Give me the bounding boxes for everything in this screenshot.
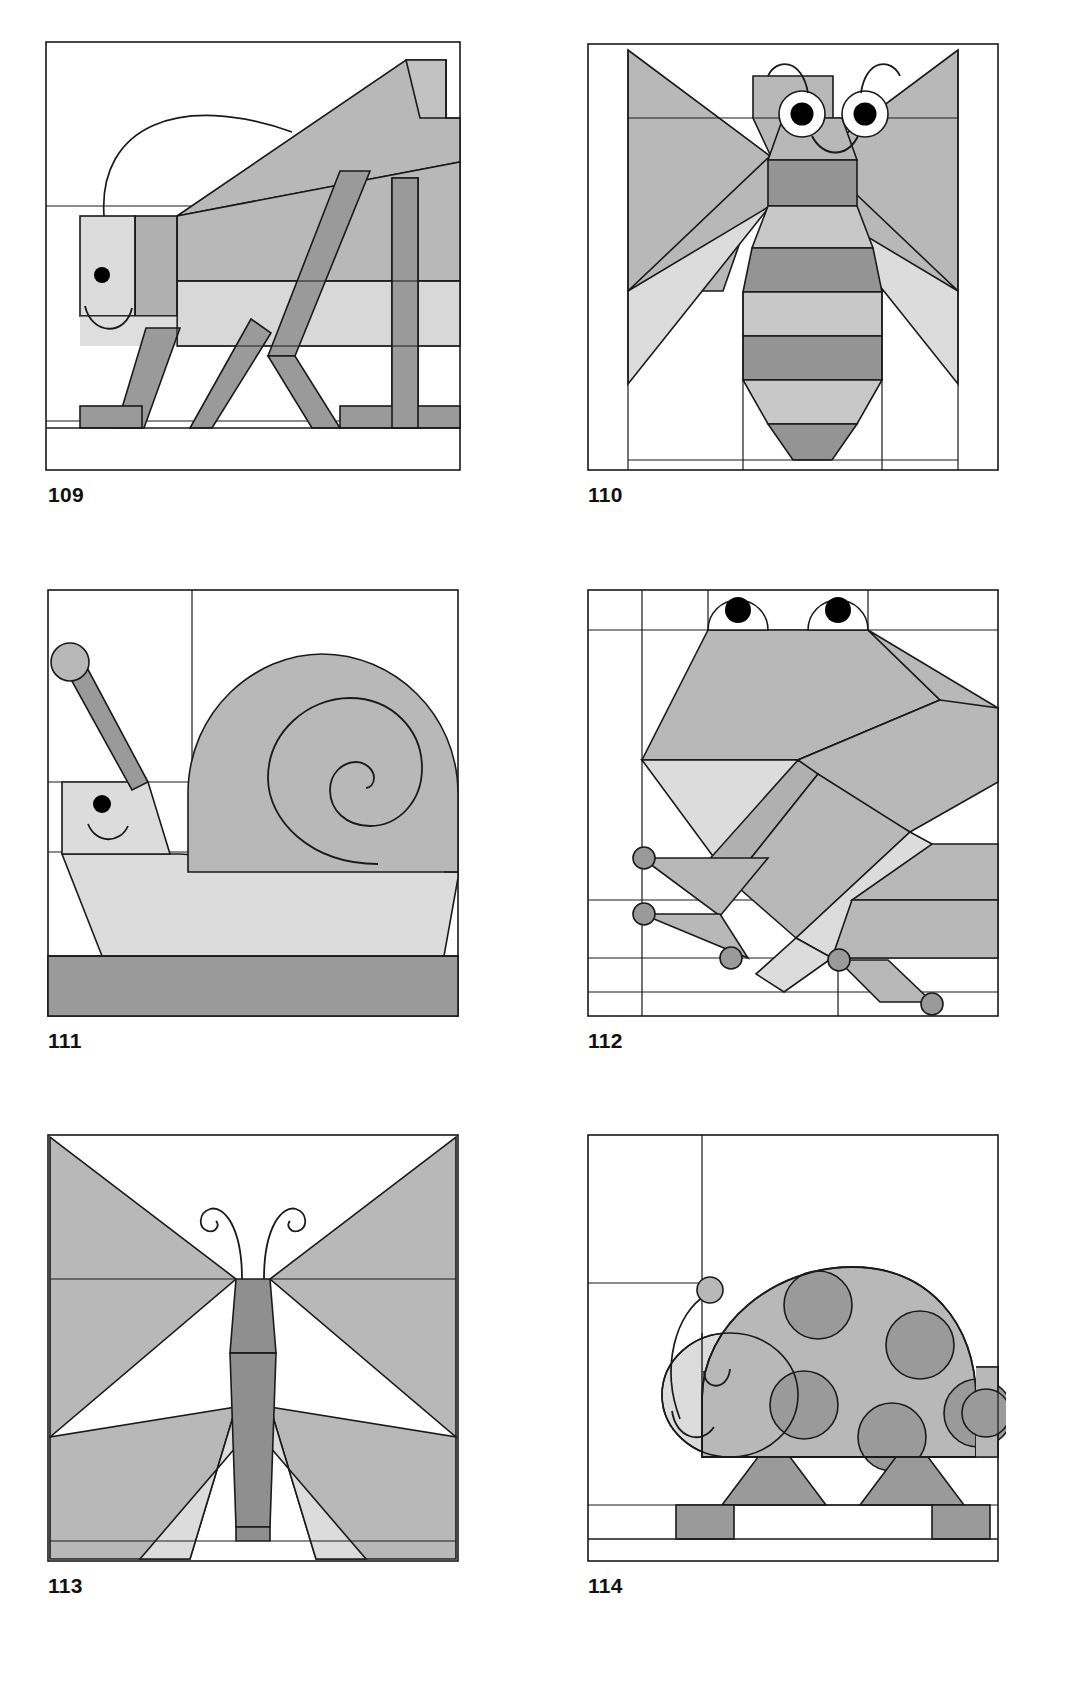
- eye-left-pupil: [725, 597, 751, 623]
- toe-pad-2: [633, 903, 655, 925]
- abdomen-seg5: [743, 380, 882, 424]
- toe-pad-6: [921, 993, 943, 1015]
- block-cell-112: 112: [580, 582, 1080, 1128]
- foot-left: [676, 1505, 734, 1539]
- abdomen-seg4: [743, 336, 882, 380]
- antenna-ball: [697, 1277, 723, 1303]
- head: [80, 216, 135, 316]
- quilt-block-butterfly[interactable]: [40, 1127, 466, 1567]
- body-mid: [230, 1353, 276, 1527]
- pattern-sheet: 109: [0, 0, 1085, 1693]
- eye-stalk-ball: [51, 643, 89, 681]
- block-caption-109: 109: [48, 484, 84, 505]
- shell-spot-3: [770, 1371, 838, 1439]
- quilt-block-bee[interactable]: [580, 36, 1006, 476]
- block-cell-113: 113: [40, 1127, 540, 1673]
- ground-strip: [48, 956, 458, 1016]
- block-caption-113: 113: [48, 1575, 83, 1596]
- body-lower: [236, 1527, 270, 1541]
- bee-thorax: [768, 160, 857, 206]
- quilt-block-snail[interactable]: [40, 582, 466, 1022]
- thorax: [135, 216, 177, 316]
- block-caption-114: 114: [588, 1575, 623, 1596]
- block-cell-109: 109: [40, 36, 540, 582]
- eye-left-pupil: [791, 103, 814, 126]
- eye-right-pupil: [825, 597, 851, 623]
- toe-pad-1: [633, 847, 655, 869]
- foot-bar-left: [80, 406, 142, 428]
- body-upper: [230, 1279, 276, 1353]
- abdomen-seg2: [743, 248, 882, 292]
- toe-pad-4: [828, 949, 850, 971]
- eye-dot: [94, 267, 110, 283]
- eye-dot: [93, 795, 111, 813]
- block-cell-114: 114: [580, 1127, 1080, 1673]
- abdomen-seg3: [743, 292, 882, 336]
- shell-spot-2: [886, 1311, 954, 1379]
- frog-hindleg-b: [832, 900, 998, 958]
- quilt-block-frog[interactable]: [580, 582, 1006, 1022]
- block-caption-111: 111: [48, 1030, 82, 1051]
- abdomen-seg1: [752, 206, 873, 248]
- block-caption-112: 112: [588, 1030, 623, 1051]
- eye-right-pupil: [854, 103, 877, 126]
- block-caption-110: 110: [588, 484, 623, 505]
- shell-spot-1: [784, 1271, 852, 1339]
- toe-pad-3: [720, 947, 742, 969]
- quilt-block-grasshopper[interactable]: [40, 36, 466, 476]
- quilt-block-ladybug[interactable]: [580, 1127, 1006, 1567]
- block-cell-111: 111: [40, 582, 540, 1128]
- foot-right: [932, 1505, 990, 1539]
- block-cell-110: 110: [580, 36, 1080, 582]
